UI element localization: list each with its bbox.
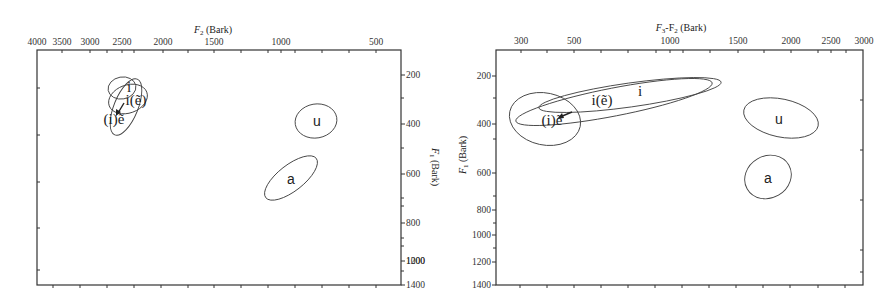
left-x-tick-labels: 4000 3500 3000 2500 2000 1500 1000 500 <box>28 37 384 47</box>
vowel-label-i-e: i(ẽ) <box>126 92 147 109</box>
x-tick-label: 3500 <box>53 37 72 47</box>
left-vowel-labels: i i(ẽ) (i)ẽ u a <box>104 79 321 187</box>
x-tick-label: 1000 <box>272 37 291 47</box>
y-tick-label: 400 <box>406 119 421 129</box>
y-tick-label: 600 <box>406 169 421 179</box>
right-y-tick-labels: 200 400 600 800 1000 1200 1400 <box>472 71 491 290</box>
vowel-label-u: u <box>775 111 783 127</box>
y-tick-label: 1400 <box>406 280 425 290</box>
x-tick-label: 2000 <box>154 37 173 47</box>
right-x-tick-labels: 300 500 1000 1500 2000 2500 3000 <box>514 36 874 46</box>
right-plot-frame <box>496 50 863 285</box>
right-x-axis-title: F3-F2 (Bark) <box>655 22 707 35</box>
x-tick-label: 3000 <box>81 37 100 47</box>
y-tick-label: 1000 <box>472 230 491 240</box>
x-tick-label: 300 <box>514 36 529 46</box>
right-chart: F3-F2 (Bark) 300 500 1000 1500 2000 2500… <box>457 22 874 290</box>
x-tick-label: 2500 <box>822 36 841 46</box>
x-tick-label: 1000 <box>661 36 680 46</box>
vowel-label-i: i <box>638 83 642 99</box>
y-tick-label: 400 <box>477 119 492 129</box>
vowel-label-i-e-nasal: (i)ẽ <box>104 111 125 128</box>
left-y-tick-labels-lower: 1000 1200 <box>406 230 425 266</box>
left-x-axis-title: F2 (Bark) <box>193 24 232 37</box>
y-tick-label: 1200 <box>406 256 425 266</box>
x-tick-label: 1500 <box>205 37 224 47</box>
y-tick-label: 800 <box>406 218 421 228</box>
x-tick-label: 2000 <box>782 36 801 46</box>
x-tick-label: 500 <box>567 36 582 46</box>
left-y-axis-title: F1 (Bark) <box>428 147 441 186</box>
y-tick-label: 600 <box>477 168 492 178</box>
right-ellipses <box>504 69 822 207</box>
figure: F2 (Bark) 4000 3500 3000 2500 2000 1500 … <box>0 0 893 306</box>
y-tick-label: 1200 <box>472 257 491 267</box>
vowel-label-a: a <box>287 171 295 187</box>
y-tick-label: 800 <box>477 205 492 215</box>
right-y-axis-title: F1 (Bark) <box>457 136 470 175</box>
x-tick-label: 3000 <box>855 36 874 46</box>
x-tick-label: 2500 <box>113 37 132 47</box>
left-plot-frame <box>37 50 401 285</box>
y-tick-label: 1400 <box>472 280 491 290</box>
x-tick-label: 4000 <box>28 37 47 47</box>
left-chart: F2 (Bark) 4000 3500 3000 2500 2000 1500 … <box>28 24 442 290</box>
x-tick-label: 500 <box>369 37 384 47</box>
vowel-label-a: a <box>764 170 772 186</box>
y-tick-label: 200 <box>406 70 421 80</box>
vowel-label-u: u <box>313 113 321 129</box>
x-tick-label: 1500 <box>729 36 748 46</box>
y-tick-label: 200 <box>477 71 492 81</box>
vowel-label-i-e: i(ẽ) <box>592 92 613 109</box>
vowel-label-i-e-nasal: (i)ẽ <box>542 112 563 129</box>
